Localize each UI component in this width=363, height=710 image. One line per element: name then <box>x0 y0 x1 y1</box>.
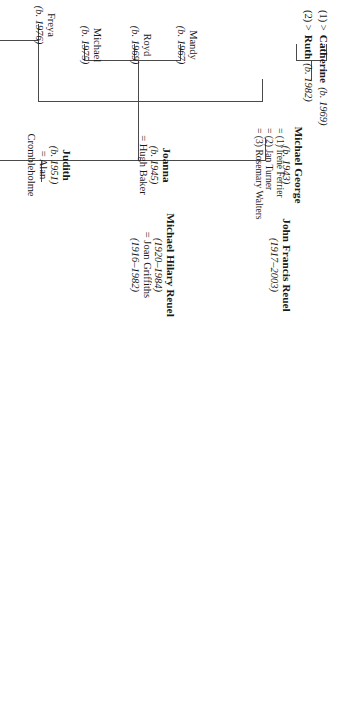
person-spouse-surname: Crombleholme <box>25 105 37 225</box>
connector-michaelgeorge-arm <box>262 79 263 102</box>
person-joanna[interactable]: Joanna (b. 1945) = Hugh Baker <box>137 105 173 225</box>
person-dates: (b. 1951) <box>49 105 61 225</box>
birth-order-prefix: (2) > <box>303 10 314 31</box>
connector-judith-arm <box>38 79 39 102</box>
person-name: Ruth <box>303 35 315 60</box>
person-dates: (b. 1969) <box>130 0 142 90</box>
spouse-2: = (2) Jan Turner <box>264 128 275 278</box>
spouse-3: = (3) Rosemary Walters <box>253 128 264 278</box>
person-judith[interactable]: Judith (b. 1951) = Alan Crombleholme <box>25 105 73 225</box>
person-name: Joanna <box>160 105 173 225</box>
person-name: Michael <box>91 0 103 90</box>
person-freya[interactable]: Freya (b. 1976) <box>34 0 58 70</box>
birth-order-prefix: (1) > <box>318 10 329 31</box>
spouse-1: = (1) Irene Ferrier <box>274 128 285 278</box>
person-name: Mandy <box>187 0 199 90</box>
person-ruth[interactable]: (2) > Ruth (b. 1982) <box>301 10 319 200</box>
person-name: Catherine <box>318 35 330 83</box>
michael-george-spouses[interactable]: = (1) Irene Ferrier = (2) Jan Turner = (… <box>253 128 285 278</box>
person-spouse: = Hugh Baker <box>137 105 149 225</box>
person-michael-crombleholme[interactable]: Michael (b. 1975) <box>80 0 104 90</box>
person-name: Royd <box>141 0 153 90</box>
connector-ruth-arm <box>296 44 297 61</box>
person-name: Judith <box>60 105 73 225</box>
person-spouse: = Alan <box>37 105 49 225</box>
person-dates: (b. 1976) <box>34 0 46 70</box>
connector-michaelh-children-spine <box>38 101 263 102</box>
person-dates: (b. 1945) <box>149 105 161 225</box>
person-dates: (b. 1982) <box>303 63 314 102</box>
person-royd[interactable]: Royd (b. 1969) <box>130 0 154 90</box>
family-tree-canvas: John Francis Reuel (1917–2003) Michael H… <box>0 0 363 710</box>
person-mandy[interactable]: Mandy (b. 1967) <box>176 0 200 90</box>
person-dates: (b. 1975) <box>80 0 92 90</box>
person-dates: (b. 1969) <box>318 87 329 126</box>
person-name: Freya <box>45 0 57 70</box>
person-dates: (b. 1967) <box>176 0 188 90</box>
